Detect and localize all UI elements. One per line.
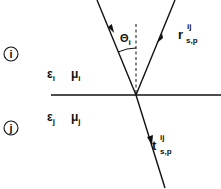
- angle-theta-label: Θi: [120, 32, 131, 47]
- reflection-subscript: s,p: [186, 36, 198, 45]
- angle-arc: [118, 48, 136, 52]
- transmission-coefficient-label: t: [152, 138, 157, 153]
- reflection-superscript: ij: [187, 22, 191, 31]
- reflected-ray: [136, 0, 175, 95]
- medium-j-label: j: [8, 122, 12, 134]
- transmission-subscript: s,p: [160, 147, 172, 156]
- fresnel-interface-diagram: i j εi μi εj μj Θi r ij s,p t ij s,p: [0, 0, 221, 189]
- epsilon-j: εj: [47, 110, 55, 126]
- reflection-coefficient-label: r: [178, 27, 183, 42]
- mu-j: μj: [71, 110, 81, 126]
- epsilon-i: εi: [47, 67, 55, 83]
- medium-i-label: i: [9, 48, 12, 60]
- reflected-arrow-icon: [157, 33, 163, 43]
- transmission-superscript: ij: [160, 133, 164, 142]
- mu-i: μi: [71, 67, 81, 83]
- incident-ray: [97, 0, 136, 95]
